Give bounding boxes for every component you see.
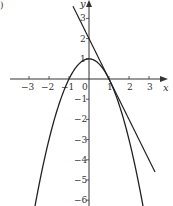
y-tick-label: −5 [74,175,88,185]
x-tick-label: −3 [21,82,35,92]
function-plot: ) x y −3−2−10123321−1−2−3−4−5−6 [0,0,173,206]
y-axis-label: y [79,0,86,9]
y-tick-label: −4 [74,155,88,165]
corner-mark: ) [0,0,4,10]
x-tick-label: −2 [41,82,54,92]
y-axis-arrow-icon [86,0,92,7]
x-tick-label: 0 [82,82,88,92]
y-tick-label: −3 [74,135,88,145]
y-tick-label: 2 [80,34,86,44]
x-tick-label: −1 [61,82,74,92]
y-tick-label: −2 [74,114,87,124]
x-tick-label: 2 [127,82,133,92]
y-tick-label: −1 [74,94,87,104]
x-tick-label: 3 [147,82,153,92]
x-axis-label: x [163,82,169,93]
y-tick-label: −6 [74,195,88,205]
